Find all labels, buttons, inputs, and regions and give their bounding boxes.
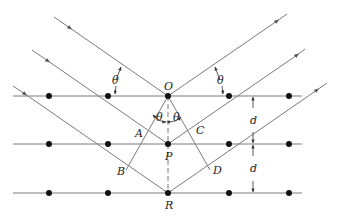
bragg-diffraction-diagram: O P R A B C D θ θ θ θ d d: [0, 0, 343, 221]
incident-ray-3: [13, 86, 168, 193]
theta-arrow-right-down: [222, 86, 223, 94]
label-theta-left: θ: [112, 74, 119, 87]
line-O-B: [126, 96, 168, 170]
incident-ray-1: [54, 17, 168, 96]
reflected-rays: [168, 14, 327, 193]
label-theta-inner-left: θ: [156, 111, 163, 124]
label-R: R: [164, 199, 173, 212]
atom: [286, 190, 292, 196]
label-theta-inner-right: θ: [173, 111, 180, 124]
labels: O P R A B C D θ θ θ θ d d: [112, 74, 257, 212]
label-O: O: [164, 80, 173, 93]
incident-ray-2: [32, 50, 168, 144]
atom-R: [165, 190, 171, 196]
label-P: P: [164, 150, 173, 163]
atom: [46, 93, 52, 99]
atom-P: [165, 141, 171, 147]
atom-O: [165, 93, 171, 99]
atom: [105, 141, 111, 147]
atom: [286, 93, 292, 99]
label-C: C: [196, 124, 205, 137]
theta-arrow-left-down: [115, 86, 116, 94]
label-d-top: d: [250, 114, 257, 127]
atom: [226, 190, 232, 196]
label-d-bottom: d: [250, 162, 257, 175]
atom: [226, 93, 232, 99]
atom: [46, 141, 52, 147]
atom: [286, 141, 292, 147]
atom: [105, 93, 111, 99]
atom: [105, 190, 111, 196]
label-B: B: [116, 165, 125, 178]
reflected-ray-1: [168, 14, 287, 96]
label-A: A: [134, 127, 143, 140]
label-D: D: [212, 164, 222, 177]
atom: [46, 190, 52, 196]
incident-rays: [13, 17, 168, 193]
label-theta-right: θ: [217, 74, 224, 87]
atom: [226, 141, 232, 147]
